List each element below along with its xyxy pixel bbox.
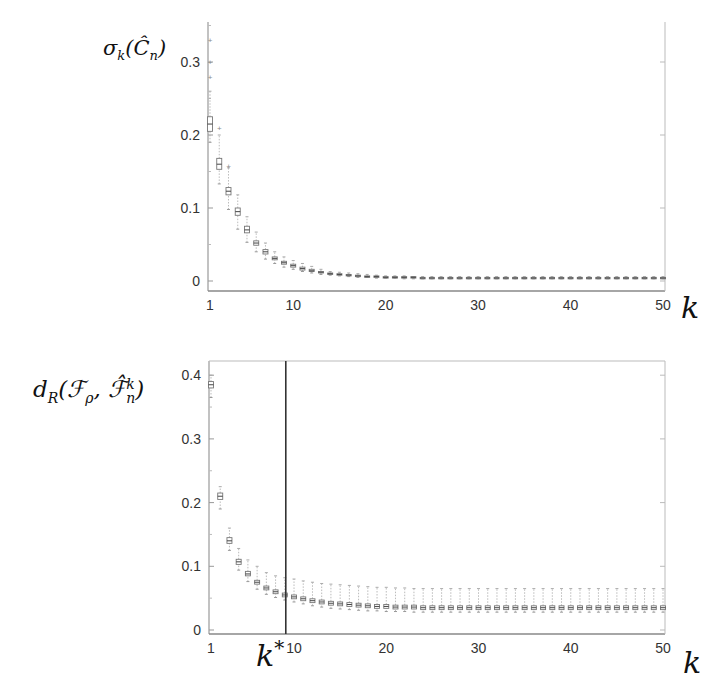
y-tick-label: 0.2 xyxy=(182,495,202,511)
x-tick-label: 10 xyxy=(286,640,302,656)
y-tick-label: 0.1 xyxy=(182,558,202,574)
box-k-42 xyxy=(587,589,592,613)
y-tick-label: 0 xyxy=(193,622,201,638)
kstar-asterisk: * xyxy=(274,636,284,660)
bottom-chart-panel: dR(ℱρ, ℱ̂kn) 00.10.20.30.411020304050 k*… xyxy=(0,0,727,692)
box-k-38 xyxy=(550,589,555,613)
bottom-x-axis-label: k xyxy=(683,645,701,680)
box-k-34 xyxy=(513,589,518,613)
box-k-24 xyxy=(421,589,426,613)
x-tick-label: 50 xyxy=(655,640,671,656)
box-k-40 xyxy=(568,589,573,613)
box-k-44 xyxy=(605,589,610,613)
box-k-45 xyxy=(614,589,619,613)
kstar-k: k xyxy=(256,638,274,673)
box-k-25 xyxy=(430,589,435,613)
box-k-13 xyxy=(319,583,324,607)
box-k-22 xyxy=(402,588,407,612)
box-k-39 xyxy=(559,589,564,613)
box-k-41 xyxy=(577,589,582,613)
box-k-31 xyxy=(485,589,490,613)
box-k-26 xyxy=(439,589,444,613)
box-k-30 xyxy=(476,589,481,613)
box-k-29 xyxy=(467,589,472,613)
box-k-11 xyxy=(301,581,306,604)
kstar-label: k* xyxy=(256,636,284,673)
box-k-48 xyxy=(642,589,647,613)
box-k-33 xyxy=(504,589,509,613)
x-tick-label: 40 xyxy=(563,640,579,656)
y-tick-label: 0.3 xyxy=(182,431,202,447)
box-k-14 xyxy=(328,584,333,608)
box-k-20 xyxy=(384,587,389,611)
box-k-7 xyxy=(264,573,269,595)
box-k-46 xyxy=(624,589,629,613)
box-k-10 xyxy=(292,579,297,602)
box-k-32 xyxy=(494,589,499,613)
box-k-36 xyxy=(531,589,536,613)
box-k-37 xyxy=(541,589,546,613)
box-k-35 xyxy=(522,589,527,613)
box-k-8 xyxy=(273,576,278,598)
box-k-5 xyxy=(245,560,250,582)
bottom-chart-plot: 00.10.20.30.411020304050 xyxy=(0,0,727,692)
box-k-15 xyxy=(338,585,343,609)
box-k-19 xyxy=(375,587,380,611)
y-tick-label: 0.4 xyxy=(182,367,202,383)
box-k-12 xyxy=(310,582,315,606)
x-tick-label: 1 xyxy=(207,640,215,656)
box-k-2 xyxy=(218,487,223,509)
box-k-3 xyxy=(227,528,232,550)
box-k-43 xyxy=(596,589,601,613)
box-k-23 xyxy=(411,589,416,613)
box-k-4 xyxy=(236,548,241,570)
box-k-28 xyxy=(458,589,463,613)
box-k-16 xyxy=(347,585,352,609)
box-k-27 xyxy=(448,589,453,613)
box-k-6 xyxy=(255,566,260,589)
box-k-18 xyxy=(365,587,370,611)
box-k-17 xyxy=(356,586,361,610)
x-tick-label: 30 xyxy=(471,640,487,656)
box-k-21 xyxy=(393,588,398,612)
box-k-47 xyxy=(633,589,638,613)
box-k-49 xyxy=(651,589,656,613)
x-tick-label: 20 xyxy=(378,640,394,656)
